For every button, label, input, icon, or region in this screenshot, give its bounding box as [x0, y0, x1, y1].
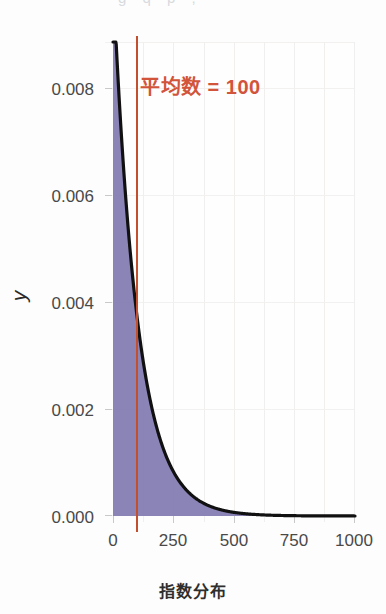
- y-tick-mark: [105, 88, 112, 89]
- y-tick-mark: [105, 409, 112, 410]
- mean-reference-line: [136, 36, 138, 532]
- mean-annotation-label: 平均数 = 100: [140, 71, 261, 100]
- x-axis-title: 指数分布: [0, 578, 386, 602]
- y-tick-label: 0.000: [14, 508, 94, 528]
- x-tick-mark: [113, 516, 114, 523]
- x-tick-mark: [234, 516, 235, 523]
- y-tick-label: 0.006: [14, 187, 94, 207]
- y-tick-mark: [105, 515, 112, 516]
- chart-screenshot: g q p , 0.008 0.006 0.004 0.002 0.000 y: [0, 0, 386, 614]
- x-tick-mark: [173, 516, 174, 523]
- exponential-density-curve: [113, 42, 355, 516]
- x-tick-label: 1000: [314, 531, 386, 551]
- y-tick-mark: [105, 302, 112, 303]
- plot-area: [113, 42, 355, 516]
- y-tick-mark: [105, 195, 112, 196]
- density-fill: [113, 42, 290, 516]
- y-axis-title: y: [7, 291, 31, 302]
- y-tick-label: 0.002: [14, 401, 94, 421]
- y-tick-label: 0.008: [14, 80, 94, 100]
